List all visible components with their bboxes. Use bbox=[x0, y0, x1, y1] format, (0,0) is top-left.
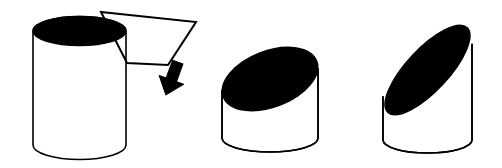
diagram-canvas bbox=[0, 0, 502, 168]
cylinder-cross-section-diagram bbox=[0, 0, 502, 168]
